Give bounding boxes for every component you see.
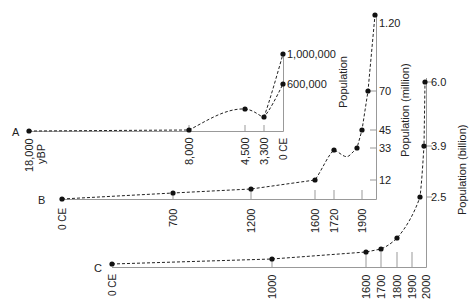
panel-b-y-tick-120: 1.20 <box>379 17 400 29</box>
panel-b-y-axis-label: Population (million) <box>399 63 411 157</box>
panel-c-y-axis-label: Population (billion) <box>456 125 468 216</box>
panel-c: C 6.0 3.9 2.5 Population (billion) 0 CE <box>94 76 468 299</box>
panel-c-y-tick-3.9: 3.9 <box>431 140 446 152</box>
panel-b-y-tick-33: 33 <box>379 142 391 154</box>
panel-a-x-tick-0ce: 0 CE <box>278 137 289 160</box>
panel-a-x-tick-3300: 3,300 <box>258 137 270 165</box>
panel-a-x-tick-ybp: yBP <box>35 144 47 164</box>
panel-c-x-tick-1900: 1900 <box>406 275 418 299</box>
panel-a-y-tick-1000000: 1,000,000 <box>287 48 336 60</box>
panel-c-x-tick-0ce: 0 CE <box>107 273 118 296</box>
panel-a-y-tick-600000: 600,000 <box>287 78 327 90</box>
panel-c-x-tick-1000: 1000 <box>266 275 278 299</box>
panel-b-x-tick-1600: 1600 <box>309 209 321 233</box>
panel-a-curve-upper <box>264 54 283 117</box>
panel-c-label: C <box>94 262 102 274</box>
panel-a-x-tick-8000: 8,000 <box>183 137 195 165</box>
panel-c-x-tick-1600: 1600 <box>360 275 372 299</box>
population-growth-chart: A 1,000,000 600,000 Population 18,000 yB… <box>0 0 476 307</box>
panel-c-y-tick-6.0: 6.0 <box>431 76 446 88</box>
panel-b-y-tick-45: 45 <box>379 124 391 136</box>
panel-b-x-tick-700: 700 <box>167 209 179 227</box>
panel-a-x-tick-18000: 18,000 <box>23 138 35 172</box>
panel-b-points <box>59 12 377 201</box>
panel-c-points <box>109 79 427 266</box>
panel-a-points <box>26 51 285 133</box>
panel-a: A 1,000,000 600,000 Population 18,000 yB… <box>12 48 349 172</box>
panel-b-x-tick-0ce: 0 CE <box>57 207 68 230</box>
panel-b-x-tick-1200: 1200 <box>245 209 257 233</box>
panel-b-label: B <box>38 194 45 206</box>
panel-b-x-tick-1720: 1720 <box>328 209 340 233</box>
panel-c-x-tick-1700: 1700 <box>375 275 387 299</box>
panel-a-x-tick-4500: 4,500 <box>239 137 251 165</box>
panel-c-x-tick-1800: 1800 <box>391 275 403 299</box>
panel-b-curve <box>62 15 375 199</box>
panel-b-x-tick-1900: 1900 <box>356 209 368 233</box>
panel-c-curve <box>112 82 425 264</box>
panel-c-y-tick-2.5: 2.5 <box>431 191 446 203</box>
panel-a-y-axis-label: Population <box>337 56 349 108</box>
panel-c-x-tick-2000: 2000 <box>420 275 432 299</box>
panel-b-y-tick-70: 70 <box>379 85 391 97</box>
panel-a-label: A <box>12 126 20 138</box>
panel-b: B 1.20 70 45 33 12 Populatio <box>38 12 411 233</box>
panel-b-y-tick-12: 12 <box>379 174 391 186</box>
